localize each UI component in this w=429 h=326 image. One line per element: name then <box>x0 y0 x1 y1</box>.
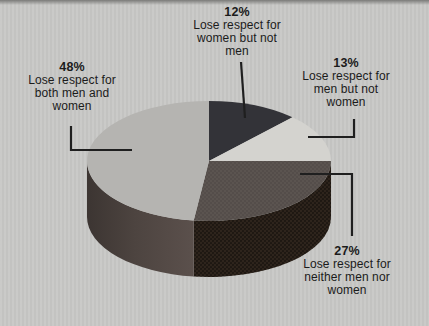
callout-12-percent: 12% Lose respect for women but not men <box>177 6 297 58</box>
callout-text-line: women <box>286 96 406 109</box>
callout-48-percent: 48% Lose respect for both men and women <box>12 61 132 113</box>
callout-text-line: men <box>177 45 297 58</box>
figure: 12% Lose respect for women but not men 1… <box>0 0 429 326</box>
callout-text-line: women <box>12 100 132 113</box>
callout-text-line: women <box>287 284 407 297</box>
callout-13-percent: 13% Lose respect for men but not women <box>286 57 406 109</box>
callout-27-percent: 27% Lose respect for neither men nor wom… <box>287 245 407 297</box>
